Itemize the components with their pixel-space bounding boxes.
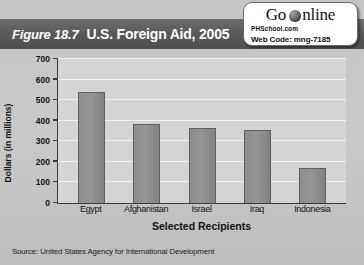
bar[interactable] bbox=[244, 130, 271, 203]
bar-slot bbox=[64, 59, 119, 203]
bar-series bbox=[58, 59, 346, 203]
y-axis-title: Dollars (in millions) bbox=[3, 103, 13, 182]
bar[interactable] bbox=[133, 124, 160, 203]
y-axis-tick-label: 0 bbox=[45, 198, 50, 208]
x-axis-title: Selected Recipients bbox=[57, 220, 346, 232]
go-online-online-text: nline bbox=[302, 5, 335, 25]
go-online-wordmark: Go nline bbox=[244, 4, 357, 25]
web-code-label: Web Code: mng-7185 bbox=[251, 35, 357, 44]
figure-number: Figure 18.7 bbox=[12, 27, 78, 42]
plot-area: 0100200300400500600700 bbox=[57, 59, 346, 204]
y-axis-tick-label: 600 bbox=[36, 75, 50, 85]
y-axis-tick-label: 100 bbox=[36, 177, 50, 187]
figure-card: Figure 18.7 U.S. Foreign Aid, 2005 Go nl… bbox=[0, 0, 364, 265]
x-axis-tick-label: Indonesia bbox=[285, 204, 340, 218]
bar[interactable] bbox=[78, 92, 105, 203]
bar-chart: Dollars (in millions) 010020030040050060… bbox=[10, 55, 354, 230]
globe-icon bbox=[289, 10, 301, 22]
x-axis-tick-label: Egypt bbox=[63, 204, 118, 218]
bar-slot bbox=[230, 59, 285, 203]
x-axis-tick-label: Iraq bbox=[229, 204, 284, 218]
bar[interactable] bbox=[299, 168, 326, 203]
go-online-logo-box[interactable]: Go nline PHSchool.com Web Code: mng-7185 bbox=[243, 2, 358, 46]
y-axis-tick-label: 700 bbox=[36, 54, 50, 64]
go-online-go-text: Go bbox=[266, 5, 286, 25]
bar-slot bbox=[119, 59, 174, 203]
x-axis-tick-labels: EgyptAfghanistanIsraelIraqIndonesia bbox=[57, 204, 346, 218]
y-axis-tick-label: 300 bbox=[36, 136, 50, 146]
source-note: Source: United States Agency for Interna… bbox=[12, 247, 214, 256]
figure-title: U.S. Foreign Aid, 2005 bbox=[86, 26, 229, 42]
bar[interactable] bbox=[189, 128, 216, 203]
phschool-site-label: PHSchool.com bbox=[251, 25, 357, 33]
x-axis-tick-label: Afghanistan bbox=[118, 204, 173, 218]
y-axis-tick-label: 200 bbox=[36, 157, 50, 167]
bar-slot bbox=[174, 59, 229, 203]
y-axis-tick-label: 500 bbox=[36, 95, 50, 105]
x-axis-tick-label: Israel bbox=[174, 204, 229, 218]
bar-slot bbox=[285, 59, 340, 203]
y-axis-tick-label: 400 bbox=[36, 116, 50, 126]
